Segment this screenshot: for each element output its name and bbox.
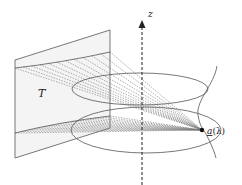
z-axis-arrow-icon <box>139 20 146 28</box>
source-point-label-arg: (λ) <box>212 126 225 136</box>
plane-t <box>15 30 110 158</box>
z-axis-label: z <box>147 9 153 19</box>
source-point <box>200 128 204 132</box>
source-trajectory-curve <box>198 66 217 158</box>
diagram: z T a(λ) <box>0 0 242 185</box>
source-point-label: a(λ) <box>207 126 225 136</box>
